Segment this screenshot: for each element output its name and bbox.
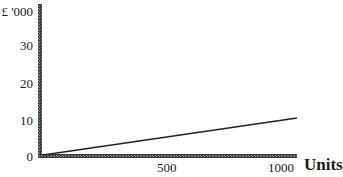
cost-line bbox=[43, 118, 297, 155]
y-tick-20: 20 bbox=[20, 77, 33, 91]
x-axis-unit-label: Units bbox=[304, 158, 343, 172]
x-axis bbox=[38, 154, 297, 158]
y-axis bbox=[38, 4, 42, 158]
y-axis-unit-label: £ '000 bbox=[1, 5, 33, 19]
x-tick-500: 500 bbox=[157, 161, 177, 175]
x-tick-1000: 1000 bbox=[268, 161, 294, 175]
y-tick-10: 10 bbox=[20, 114, 33, 128]
y-tick-0: 0 bbox=[27, 150, 34, 164]
y-tick-30: 30 bbox=[20, 39, 33, 53]
